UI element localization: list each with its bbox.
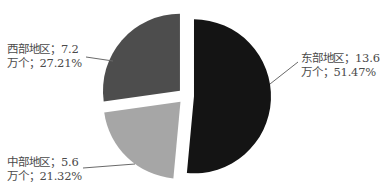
slice-label-west-line1: 西部地区；7.2 [7,42,82,56]
slice-label-central-line1: 中部地区；5.6 [7,155,82,169]
pie-slice-east [187,19,271,173]
slice-label-central-line2: 万个；21.32% [7,169,82,183]
slice-label-west-line2: 万个；27.21% [7,56,82,70]
slice-label-east-line2: 万个；51.47% [301,65,380,79]
slice-label-east-line1: 东部地区；13.6 [301,51,380,65]
pie-slice-west [103,14,180,102]
leader-line-west [86,57,113,61]
leader-line-central [83,164,135,168]
leader-line-east [270,62,298,84]
slice-label-central: 中部地区；5.6 万个；21.32% [7,155,82,183]
slice-label-west: 西部地区；7.2 万个；27.21% [7,42,82,70]
slice-label-east: 东部地区；13.6 万个；51.47% [301,51,380,79]
pie-slice-central [104,102,180,179]
